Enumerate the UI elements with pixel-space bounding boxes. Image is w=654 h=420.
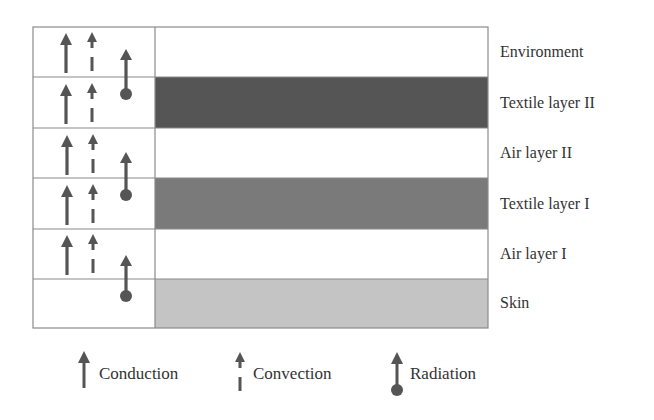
legend-label-conduction: Conduction	[99, 364, 178, 384]
convection-arrows	[87, 32, 98, 273]
layer-textile-ii	[155, 77, 488, 128]
layer-label-textile-i: Textile layer I	[500, 194, 590, 214]
layer-skin	[155, 279, 488, 328]
solid-arrow-up-icon	[61, 135, 73, 175]
layer-label-air-i: Air layer I	[500, 244, 567, 264]
dashed-arrow-up-icon	[88, 184, 98, 223]
layer-textile-i	[155, 178, 488, 229]
ball-arrow-up-icon	[391, 352, 403, 396]
layer-label-air-ii: Air layer II	[500, 143, 572, 163]
dashed-arrow-up-icon	[87, 32, 97, 71]
layer-label-textile-ii: Textile layer II	[500, 93, 595, 113]
solid-arrow-up-icon	[60, 84, 72, 124]
solid-arrow-up-icon	[78, 351, 90, 388]
solid-arrow-up-icon	[61, 185, 73, 225]
layer-label-environment: Environment	[500, 42, 584, 62]
dashed-arrow-up-icon	[87, 83, 97, 122]
dashed-arrow-up-icon	[235, 352, 245, 391]
solid-arrow-up-icon	[61, 235, 73, 275]
dashed-arrow-up-icon	[88, 234, 98, 273]
radiation-arrows	[120, 49, 132, 302]
conduction-arrows	[60, 33, 73, 275]
legend-label-radiation: Radiation	[410, 364, 476, 384]
ball-arrow-up-icon	[120, 49, 132, 100]
solid-arrow-up-icon	[60, 33, 72, 73]
ball-arrow-up-icon	[120, 152, 132, 201]
layer-label-skin: Skin	[500, 293, 529, 313]
layer-environment	[155, 27, 488, 77]
layer-air-i	[155, 229, 488, 279]
legend-label-convection: Convection	[253, 364, 331, 384]
layer-air-ii	[155, 128, 488, 178]
dashed-arrow-up-icon	[88, 134, 98, 173]
